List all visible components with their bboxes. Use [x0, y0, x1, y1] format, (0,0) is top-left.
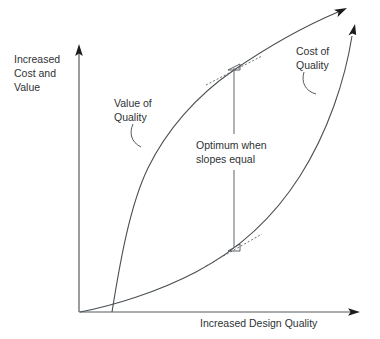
cost-of-quality-curve — [80, 36, 352, 312]
y-axis-label: Increased Cost and Value — [14, 52, 60, 94]
quality-cost-value-diagram: Increased Cost and Value Increased Desig… — [0, 0, 380, 339]
cost-label-leader-line — [303, 72, 316, 94]
leader-lines-group — [131, 72, 316, 147]
x-axis-label: Increased Design Quality — [200, 316, 317, 330]
value-of-quality-label: Value of Quality — [114, 96, 152, 124]
value-label-leader-line — [131, 124, 141, 147]
cost-curve-arrow-icon — [348, 24, 356, 36]
cost-of-quality-label: Cost of Quality — [296, 44, 329, 72]
optimum-annotation-label: Optimum when slopes equal — [196, 138, 267, 166]
